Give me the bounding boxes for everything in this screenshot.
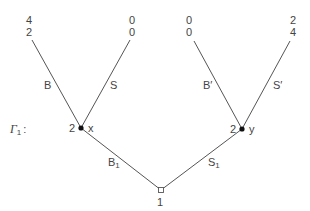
node-x-player-label: 2 [69, 122, 75, 134]
edge-label-B: B [44, 79, 51, 91]
node-x [78, 125, 83, 130]
payoff-SS-p1: 2 [290, 14, 296, 26]
payoff-SB-p2: 0 [186, 26, 192, 38]
root-player-label: 1 [157, 196, 163, 208]
game-tree: 1 2 x 2 y Γ1: B1 S1 B S B′ S′ 4 2 0 0 0 … [0, 0, 310, 211]
edge-S-prime [242, 41, 290, 129]
payoff-BB-p2: 2 [26, 26, 32, 38]
node-x-label: x [88, 122, 94, 134]
edge-label-S: S [110, 79, 117, 91]
payoff-BS-p1: 0 [129, 14, 135, 26]
edge-label-B1: B1 [108, 156, 120, 170]
payoff-SS-p2: 4 [290, 26, 296, 38]
node-y-player-label: 2 [230, 123, 236, 135]
edge-label-B-prime: B′ [203, 79, 212, 91]
edge-B [32, 40, 81, 128]
payoff-BB-p1: 4 [26, 14, 32, 26]
game-name: Γ1: [9, 122, 26, 137]
root-node [159, 188, 164, 193]
payoff-BS-p2: 0 [129, 26, 135, 38]
payoff-SB-p1: 0 [186, 14, 192, 26]
node-y [239, 126, 244, 131]
node-y-label: y [249, 123, 255, 135]
edge-B-prime [194, 41, 242, 129]
edge-S [81, 40, 130, 128]
edge-S1 [161, 129, 242, 190]
edge-B1 [81, 128, 161, 190]
edge-label-S-prime: S′ [273, 79, 282, 91]
edge-label-S1: S1 [208, 156, 220, 170]
